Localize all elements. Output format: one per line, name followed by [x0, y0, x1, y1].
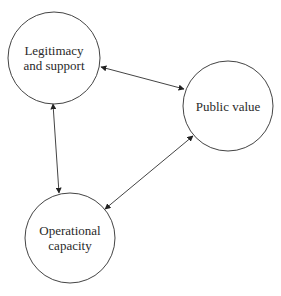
- node-label-legitimacy: Legitimacyand support: [23, 43, 84, 73]
- bidirectional-arrow-operational-public_value: [105, 136, 193, 209]
- node-label-line: Legitimacy: [23, 43, 84, 58]
- node-label-line: capacity: [39, 238, 100, 253]
- node-label-line: Operational: [39, 223, 100, 238]
- node-label-line: Public value: [196, 99, 261, 114]
- bidirectional-arrow-legitimacy-public_value: [101, 67, 184, 89]
- node-label-public_value: Public value: [196, 99, 261, 114]
- bidirectional-arrow-legitimacy-operational: [53, 104, 59, 193]
- node-label-operational: Operationalcapacity: [39, 223, 100, 253]
- node-label-line: and support: [23, 58, 84, 73]
